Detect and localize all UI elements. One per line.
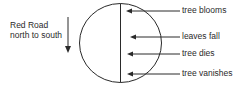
down-arrow-icon [65,17,71,53]
arrow-leaves-fall [130,35,180,40]
arrow-tree-vanishes [127,72,180,77]
event-label-tree-dies: tree dies [182,49,215,58]
road-direction-label: north to south [10,31,62,40]
road-name-label: Red Road [10,21,48,30]
event-label-tree-blooms: tree blooms [182,6,226,15]
arrow-tree-dies [127,52,180,57]
arrow-tree-blooms [126,9,180,14]
event-label-leaves-fall: leaves fall [182,32,220,41]
event-label-tree-vanishes: tree vanishes [182,69,233,78]
